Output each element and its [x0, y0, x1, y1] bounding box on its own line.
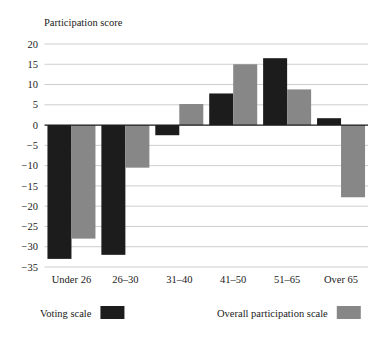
- y-tick-label: −5: [27, 140, 38, 151]
- bar: [263, 58, 287, 125]
- bar: [341, 125, 365, 197]
- bar: [287, 89, 311, 125]
- chart-canvas: Participation score 20151050−5−10−15−20−…: [0, 0, 383, 339]
- x-category-label: 51–65: [274, 274, 300, 285]
- bar: [233, 64, 257, 125]
- x-category-label: Over 65: [324, 274, 358, 285]
- legend-label: Overall participation scale: [217, 308, 328, 319]
- y-tick-label: −10: [22, 160, 38, 171]
- bar: [317, 118, 341, 125]
- y-tick-label: −20: [22, 201, 38, 212]
- legend-label: Voting scale: [40, 308, 92, 319]
- participation-score-chart: Participation score 20151050−5−10−15−20−…: [0, 0, 383, 339]
- bar: [209, 93, 233, 125]
- x-category-label: 31–40: [166, 274, 192, 285]
- y-tick-label: 10: [28, 79, 39, 90]
- y-tick-label: −30: [22, 241, 38, 252]
- y-tick-label: 5: [33, 99, 38, 110]
- y-tick-label: −35: [22, 262, 38, 273]
- bar: [125, 125, 149, 168]
- legend-swatch: [337, 306, 361, 319]
- chart-title: Participation score: [44, 17, 123, 28]
- bar: [101, 125, 125, 255]
- y-tick-label: −25: [22, 221, 38, 232]
- x-category-label: 26–30: [112, 274, 138, 285]
- bar: [71, 125, 95, 239]
- bar: [155, 125, 179, 135]
- x-category-label: Under 26: [52, 274, 91, 285]
- bar: [179, 104, 203, 125]
- y-tick-label: 0: [33, 120, 38, 131]
- y-tick-label: 15: [28, 59, 39, 70]
- bar: [47, 125, 71, 259]
- legend-swatch: [100, 306, 124, 319]
- y-tick-label: 20: [28, 39, 39, 50]
- y-tick-label: −15: [22, 181, 38, 192]
- x-category-label: 41–50: [220, 274, 246, 285]
